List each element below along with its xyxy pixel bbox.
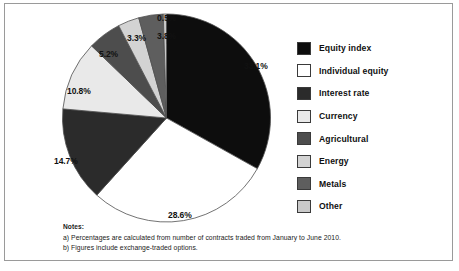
pie-label-metals: 3.8% <box>157 31 176 41</box>
legend-swatch <box>297 64 311 77</box>
chart-frame: 33.1% 28.6% 14.7% 10.8% 5.2% 3.3% 3.8% 0… <box>4 3 453 261</box>
pie-label-individual-equity: 28.6% <box>168 210 192 220</box>
legend-swatch <box>297 42 311 55</box>
legend-item[interactable]: Interest rate <box>297 82 447 105</box>
pie-chart-svg <box>53 8 299 224</box>
pie-label-agricultural: 5.2% <box>99 49 118 59</box>
legend-swatch <box>297 132 311 145</box>
note-line-b: b) Figures include exchange-traded optio… <box>63 244 443 251</box>
notes-heading: Notes: <box>63 223 443 230</box>
legend-item[interactable]: Other <box>297 195 447 218</box>
chart-legend: Equity indexIndividual equityInterest ra… <box>297 37 447 218</box>
legend-item-label: Energy <box>319 156 349 166</box>
pie-chart-figure: 33.1% 28.6% 14.7% 10.8% 5.2% 3.3% 3.8% 0… <box>5 4 452 260</box>
legend-item-label: Metals <box>319 179 346 189</box>
legend-swatch <box>297 177 311 190</box>
legend-item-label: Currency <box>319 111 358 121</box>
legend-item[interactable]: Currency <box>297 105 447 128</box>
pie-label-energy: 3.3% <box>127 33 146 43</box>
notes-block: Notes: a) Percentages are calculated fro… <box>63 223 443 254</box>
legend-swatch <box>297 200 311 213</box>
legend-item-label: Individual equity <box>319 66 389 76</box>
legend-item[interactable]: Equity index <box>297 37 447 60</box>
legend-swatch <box>297 155 311 168</box>
pie-label-currency: 10.8% <box>67 86 91 96</box>
legend-item-label: Agricultural <box>319 134 368 144</box>
pie-slices <box>62 14 270 222</box>
legend-item[interactable]: Energy <box>297 150 447 173</box>
note-line-a: a) Percentages are calculated from numbe… <box>63 234 443 241</box>
pie-label-interest-rate: 14.7% <box>54 156 78 166</box>
pie-label-other: 0.5% <box>157 13 176 23</box>
legend-item[interactable]: Individual equity <box>297 60 447 83</box>
legend-item-label: Other <box>319 201 342 211</box>
legend-item[interactable]: Metals <box>297 173 447 196</box>
legend-item-label: Equity index <box>319 43 371 53</box>
legend-swatch <box>297 110 311 123</box>
legend-item[interactable]: Agricultural <box>297 127 447 150</box>
legend-item-label: Interest rate <box>319 88 370 98</box>
legend-swatch <box>297 87 311 100</box>
pie-label-equity-index: 33.1% <box>244 61 268 71</box>
